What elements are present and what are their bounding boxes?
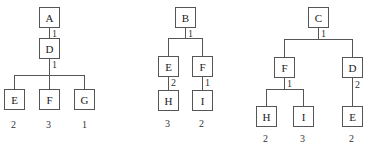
node-i: I xyxy=(293,106,314,127)
edge-bar xyxy=(284,39,353,40)
edge-weight: 2 xyxy=(171,78,176,88)
leaf-value-g: 1 xyxy=(82,120,87,130)
edge-f-i xyxy=(202,77,203,90)
node-e: E xyxy=(4,89,25,110)
node-g: G xyxy=(74,89,95,110)
edge-to-i xyxy=(303,89,304,106)
node-f: F xyxy=(274,57,295,78)
leaf-value-h: 3 xyxy=(165,119,170,129)
node-f: F xyxy=(39,89,60,110)
edge-weight: 1 xyxy=(287,79,292,89)
leaf-value-e: 2 xyxy=(11,120,16,130)
node-c: C xyxy=(308,7,329,28)
node-i: I xyxy=(192,90,213,111)
edge-to-h xyxy=(266,89,267,106)
node-d: D xyxy=(342,57,363,78)
leaf-value-i: 2 xyxy=(199,119,204,129)
node-e: E xyxy=(342,106,363,127)
edge-f-down xyxy=(284,78,285,89)
node-d: D xyxy=(39,38,60,59)
edge-d-e xyxy=(352,78,353,106)
node-a: A xyxy=(39,7,60,28)
leaf-value-h: 2 xyxy=(263,134,268,144)
edge-to-e xyxy=(168,38,169,56)
leaf-value-i: 3 xyxy=(300,134,305,144)
edge-d-down xyxy=(49,59,50,89)
edge-to-d xyxy=(352,39,353,57)
node-h: H xyxy=(256,106,277,127)
edge-weight: 1 xyxy=(321,29,326,39)
edge-bar xyxy=(266,89,304,90)
node-h: H xyxy=(158,90,179,111)
edge-weight: 1 xyxy=(52,60,57,70)
edge-weight: 1 xyxy=(205,78,210,88)
node-b: B xyxy=(175,7,196,28)
edge-to-g xyxy=(84,75,85,89)
node-f: F xyxy=(192,56,213,77)
leaf-value-f: 3 xyxy=(46,120,51,130)
edge-to-e xyxy=(14,75,15,89)
node-e: E xyxy=(158,56,179,77)
edge-bar xyxy=(168,38,203,39)
edge-weight: 2 xyxy=(355,80,360,90)
edge-e-h xyxy=(168,77,169,90)
edge-bar xyxy=(14,75,85,76)
edge-c-down xyxy=(318,28,319,39)
leaf-value-e: 2 xyxy=(349,134,354,144)
edge-to-f xyxy=(284,39,285,57)
edge-to-f xyxy=(202,38,203,56)
